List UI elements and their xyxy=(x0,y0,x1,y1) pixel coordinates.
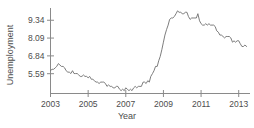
x-axis-title: Year xyxy=(0,111,254,121)
x-tick-label: 2003 xyxy=(41,99,60,109)
y-tick-label: 8.09 xyxy=(28,33,45,43)
chart-plot-area: 5.596.848.099.34 20032005200720092011201… xyxy=(0,0,254,128)
y-tick-label: 6.84 xyxy=(28,51,45,61)
unemployment-data-line xyxy=(51,11,247,91)
y-tick-label: 5.59 xyxy=(28,69,45,79)
x-tick-label: 2011 xyxy=(192,99,211,109)
x-tick-label: 2009 xyxy=(154,99,173,109)
unemployment-line-chart: 5.596.848.099.34 20032005200720092011201… xyxy=(0,0,254,128)
x-tick-label: 2013 xyxy=(229,99,248,109)
chart-axes xyxy=(51,8,251,94)
x-axis-ticks: 200320052007200920112013 xyxy=(41,90,248,109)
y-axis-title: Unemployment xyxy=(5,18,15,92)
y-tick-label: 9.34 xyxy=(28,15,45,25)
x-tick-label: 2005 xyxy=(79,99,98,109)
x-tick-label: 2007 xyxy=(116,99,135,109)
